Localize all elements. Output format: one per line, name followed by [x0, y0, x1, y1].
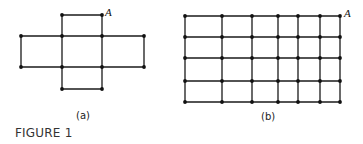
vertex: [276, 100, 280, 104]
vertex: [220, 79, 224, 83]
vertex: [296, 14, 300, 18]
figure-canvas: [0, 0, 363, 144]
vertex: [100, 34, 104, 38]
vertex: [183, 35, 187, 39]
vertex: [19, 65, 23, 69]
vertex: [318, 79, 322, 83]
vertex: [220, 35, 224, 39]
vertex: [19, 34, 23, 38]
graph-a-edges: [21, 15, 144, 89]
vertex: [142, 34, 146, 38]
vertex: [318, 14, 322, 18]
vertex: [250, 35, 254, 39]
vertex: [338, 35, 342, 39]
figure-caption: FIGURE 1: [15, 126, 73, 140]
graph-b-label: (b): [261, 111, 275, 122]
vertex: [183, 14, 187, 18]
vertex: [296, 35, 300, 39]
graph-b-vertices: [183, 14, 342, 104]
vertex: [318, 100, 322, 104]
vertex: [220, 100, 224, 104]
vertex: [276, 79, 280, 83]
vertex: [183, 56, 187, 60]
vertex: [100, 13, 104, 17]
vertex: [276, 14, 280, 18]
vertex: [296, 79, 300, 83]
vertex: [338, 100, 342, 104]
vertex: [183, 100, 187, 104]
vertex: [296, 56, 300, 60]
graph-a-label: (a): [76, 110, 90, 121]
vertex: [276, 56, 280, 60]
vertex: [338, 56, 342, 60]
vertex: [60, 34, 64, 38]
vertex: [60, 13, 64, 17]
vertex: [250, 100, 254, 104]
vertex: [220, 56, 224, 60]
vertex: [250, 79, 254, 83]
graph-a-vertices: [19, 13, 146, 91]
vertex: [250, 56, 254, 60]
graph-a-vertex-label-a: A: [105, 6, 112, 18]
vertex: [100, 65, 104, 69]
vertex: [250, 14, 254, 18]
vertex: [100, 87, 104, 91]
vertex: [296, 100, 300, 104]
vertex: [60, 87, 64, 91]
vertex: [276, 35, 280, 39]
vertex: [142, 65, 146, 69]
vertex: [220, 14, 224, 18]
vertex: [338, 79, 342, 83]
graph-b-vertex-label-a: A: [344, 7, 351, 19]
vertex: [60, 65, 64, 69]
vertex: [338, 14, 342, 18]
vertex: [318, 56, 322, 60]
vertex: [183, 79, 187, 83]
graph-b-edges: [185, 16, 340, 102]
vertex: [318, 35, 322, 39]
